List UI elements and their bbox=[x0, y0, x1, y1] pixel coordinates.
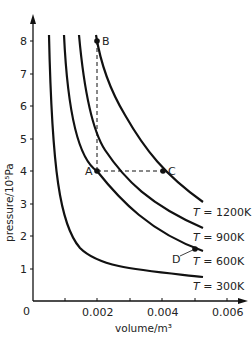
label-d: D bbox=[172, 253, 180, 266]
y-tick-1: 1 bbox=[20, 263, 27, 276]
curve-label-1200k: T = 1200K bbox=[193, 206, 252, 219]
point-b bbox=[94, 38, 100, 44]
svg-text:T = 1200K: T = 1200K bbox=[193, 206, 252, 219]
y-axis-title: pressure/10⁵Pa bbox=[3, 163, 15, 242]
pv-isotherm-chart: 8 7 6 5 4 3 2 1 0 0.002 0.004 0.006 volu… bbox=[0, 0, 252, 343]
y-tick-6: 6 bbox=[20, 100, 27, 113]
x-axis-title: volume/m³ bbox=[115, 322, 172, 334]
svg-text:T = 300K: T = 300K bbox=[193, 280, 245, 293]
x-axis-arrow-icon bbox=[238, 298, 248, 304]
y-tick-5: 5 bbox=[20, 133, 27, 146]
y-axis-arrow-icon bbox=[30, 14, 36, 24]
y-tick-8: 8 bbox=[20, 35, 27, 48]
point-a bbox=[94, 168, 100, 174]
svg-text:T = 900K: T = 900K bbox=[193, 231, 245, 244]
origin-label: 0 bbox=[23, 305, 30, 318]
y-tick-4: 4 bbox=[20, 165, 27, 178]
curve-label-900k: T = 900K bbox=[193, 231, 245, 244]
x-tick-0-006: 0.006 bbox=[212, 306, 244, 319]
y-tick-7: 7 bbox=[20, 68, 27, 81]
y-tick-3: 3 bbox=[20, 198, 27, 211]
y-tick-2: 2 bbox=[20, 230, 27, 243]
label-a: A bbox=[85, 165, 93, 178]
curve-label-300k: T = 300K bbox=[193, 280, 245, 293]
svg-text:T = 600K: T = 600K bbox=[193, 255, 245, 268]
label-b: B bbox=[102, 35, 110, 48]
point-c bbox=[160, 168, 166, 174]
x-tick-0-004: 0.004 bbox=[147, 306, 179, 319]
x-tick-0-002: 0.002 bbox=[82, 306, 114, 319]
curve-label-600k: T = 600K bbox=[193, 255, 245, 268]
label-c: C bbox=[168, 165, 176, 178]
isotherm-900k bbox=[79, 35, 203, 228]
isotherm-1200k bbox=[96, 35, 203, 202]
